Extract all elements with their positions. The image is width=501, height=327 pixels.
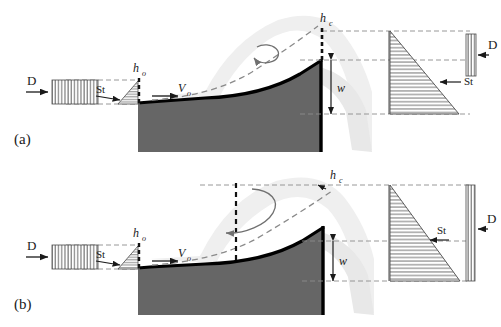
inlet-shear-label-a: St: [96, 83, 105, 95]
inlet-depth-label-b: h: [133, 226, 139, 240]
outlet-shear-label-b: St: [437, 224, 446, 236]
inlet-shear-label-b: St: [96, 248, 105, 260]
outlet-diffusion-block-b: [466, 185, 475, 281]
inlet-depth-sub-b: o: [142, 234, 146, 243]
inlet-depth-sub-a: o: [142, 69, 146, 78]
drop-height-label-b: w: [339, 254, 347, 268]
drop-height-label-a: w: [337, 81, 345, 95]
inlet-diffusion-label-a: D: [27, 73, 36, 88]
panel-label-b: (b): [14, 296, 32, 313]
outlet-diffusion-label-b: D: [487, 211, 496, 226]
crest-depth-label-a: h: [320, 11, 326, 25]
approach-velocity-sub-a: o: [187, 89, 191, 98]
outlet-shear-label-a: St: [464, 75, 473, 87]
outlet-diffusion-block-a: [466, 34, 476, 76]
inlet-diffusion-block-a: [52, 80, 98, 104]
crest-depth-sub-b: c: [339, 176, 343, 185]
figure-canvas: D St h o V o h c w D St (a): [0, 0, 501, 327]
outlet-diffusion-label-a: D: [488, 37, 497, 52]
crest-depth-label-b: h: [330, 168, 336, 182]
crest-depth-sub-a: c: [329, 19, 333, 28]
schematic-svg: D St h o V o h c w D St (a): [0, 0, 501, 327]
panel-label-a: (a): [14, 131, 31, 148]
inlet-depth-label-a: h: [133, 61, 139, 75]
inlet-diffusion-label-b: D: [27, 238, 36, 253]
approach-velocity-sub-b: o: [187, 254, 191, 263]
inlet-diffusion-block-b: [52, 245, 98, 269]
